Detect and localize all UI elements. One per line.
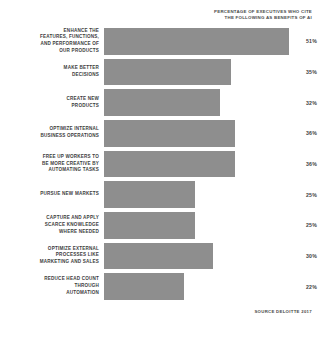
chart-row: FREE UP WORKERS TOBE MORE CREATIVE BYAUT…	[0, 151, 319, 178]
bar-value-label: 36%	[306, 130, 317, 136]
category-label: MAKE BETTERDECISIONS	[0, 65, 104, 79]
bar-track: 25%	[104, 212, 319, 239]
category-label-line: DECISIONS	[0, 72, 99, 79]
category-label-line: AUTOMATION	[0, 290, 99, 297]
bar-value-label: 35%	[306, 69, 317, 75]
bar	[104, 89, 220, 116]
bar-track: 30%	[104, 243, 319, 270]
bar-value-label: 25%	[306, 192, 317, 198]
category-label: OPTIMIZE EXTERNALPROCESSES LIKEMARKETING…	[0, 246, 104, 267]
category-label-line: PROCESSES LIKE	[0, 252, 99, 259]
category-label-line: OPTIMIZE INTERNAL	[0, 126, 99, 133]
category-label-line: THROUGH	[0, 283, 99, 290]
chart-row: REDUCE HEAD COUNTTHROUGHAUTOMATION22%	[0, 273, 319, 300]
bar	[104, 181, 195, 208]
category-label: REDUCE HEAD COUNTTHROUGHAUTOMATION	[0, 276, 104, 297]
bar-track: 25%	[104, 181, 319, 208]
category-label-line: OUR PRODUCTS	[0, 48, 99, 55]
bar	[104, 273, 184, 300]
category-label-line: PURSUE NEW MARKETS	[0, 191, 99, 198]
category-label-line: AUTOMATING TASKS	[0, 167, 99, 174]
category-label: CREATE NEWPRODUCTS	[0, 96, 104, 110]
bar	[104, 212, 195, 239]
ai-benefits-bar-chart: PERCENTAGE OF EXECUTIVES WHO CITE THE FO…	[0, 0, 319, 342]
source-credit: SOURCE DELOITTE 2017	[254, 309, 312, 314]
bar-value-label: 22%	[306, 284, 317, 290]
chart-row: CAPTURE AND APPLYSCARCE KNOWLEDGEWHERE N…	[0, 212, 319, 239]
chart-row: PURSUE NEW MARKETS25%	[0, 181, 319, 208]
bar-value-label: 25%	[306, 222, 317, 228]
chart-row: CREATE NEWPRODUCTS32%	[0, 89, 319, 116]
chart-row: MAKE BETTERDECISIONS35%	[0, 59, 319, 86]
category-label-line: REDUCE HEAD COUNT	[0, 276, 99, 283]
category-label-line: BE MORE CREATIVE BY	[0, 161, 99, 168]
bar-value-label: 32%	[306, 100, 317, 106]
bar-track: 22%	[104, 273, 319, 300]
bar-track: 36%	[104, 120, 319, 147]
chart-plot-area: ENHANCE THEFEATURES, FUNCTIONS,AND PERFO…	[0, 28, 319, 300]
category-label-line: WHERE NEEDED	[0, 229, 99, 236]
category-label-line: AND PERFORMANCE OF	[0, 41, 99, 48]
category-label-line: MARKETING AND SALES	[0, 259, 99, 266]
category-label-line: PRODUCTS	[0, 103, 99, 110]
chart-row: ENHANCE THEFEATURES, FUNCTIONS,AND PERFO…	[0, 28, 319, 55]
bar-track: 51%	[104, 28, 319, 55]
bar-value-label: 51%	[306, 38, 317, 44]
category-label: CAPTURE AND APPLYSCARCE KNOWLEDGEWHERE N…	[0, 215, 104, 236]
category-label: PURSUE NEW MARKETS	[0, 191, 104, 198]
bar	[104, 120, 235, 147]
bar	[104, 28, 289, 55]
category-label-line: FREE UP WORKERS TO	[0, 154, 99, 161]
category-label: FREE UP WORKERS TOBE MORE CREATIVE BYAUT…	[0, 154, 104, 175]
chart-row: OPTIMIZE EXTERNALPROCESSES LIKEMARKETING…	[0, 243, 319, 270]
category-label-line: CREATE NEW	[0, 96, 99, 103]
chart-header-line-2: THE FOLLOWING AS BENEFITS OF AI	[162, 15, 312, 21]
category-label-line: OPTIMIZE EXTERNAL	[0, 246, 99, 253]
category-label-line: CAPTURE AND APPLY	[0, 215, 99, 222]
chart-row: OPTIMIZE INTERNALBUSINESS OPERATIONS36%	[0, 120, 319, 147]
bar	[104, 243, 213, 270]
bar-value-label: 30%	[306, 253, 317, 259]
category-label-line: FEATURES, FUNCTIONS,	[0, 34, 99, 41]
category-label: OPTIMIZE INTERNALBUSINESS OPERATIONS	[0, 126, 104, 140]
category-label-line: SCARCE KNOWLEDGE	[0, 222, 99, 229]
category-label-line: BUSINESS OPERATIONS	[0, 133, 99, 140]
bar-track: 36%	[104, 151, 319, 178]
bar-track: 35%	[104, 59, 319, 86]
category-label-line: ENHANCE THE	[0, 28, 99, 35]
bar-value-label: 36%	[306, 161, 317, 167]
bar	[104, 59, 231, 86]
category-label: ENHANCE THEFEATURES, FUNCTIONS,AND PERFO…	[0, 28, 104, 56]
bar-track: 32%	[104, 89, 319, 116]
category-label-line: MAKE BETTER	[0, 65, 99, 72]
chart-header: PERCENTAGE OF EXECUTIVES WHO CITE THE FO…	[162, 9, 312, 22]
bar	[104, 151, 235, 178]
